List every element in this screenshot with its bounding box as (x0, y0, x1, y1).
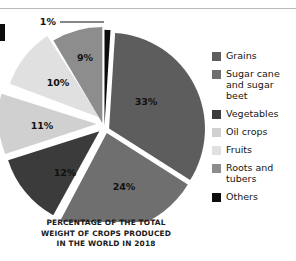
top-divider-rule (0, 8, 296, 9)
legend-item-others[interactable]: Others (212, 191, 296, 202)
legend-label-roots-and-tubers: Roots and tubers (226, 162, 273, 184)
chart-legend: Grains Sugar cane and sugar beet Vegetab… (212, 50, 296, 209)
caption-line-3: IN THE WORLD IN 2018 (6, 239, 206, 250)
legend-item-sugar-cane-and-sugar-beet[interactable]: Sugar cane and sugar beet (212, 68, 296, 101)
slice-value-others: 1% (40, 16, 57, 27)
caption-line-2: WEIGHT OF CROPS PRODUCED (6, 229, 206, 240)
pie-chart-svg: 33% 24% 12% 11% 10% 9% 1% (0, 10, 208, 222)
legend-swatch-fruits (212, 146, 221, 155)
legend-label-vegetables: Vegetables (226, 108, 279, 119)
slice-value-sugar-cane: 24% (113, 181, 136, 192)
legend-label-oil-crops: Oil crops (226, 126, 268, 137)
caption-line-1: PERCENTAGE OF THE TOTAL (6, 218, 206, 229)
legend-swatch-sugar-cane-and-sugar-beet (212, 70, 221, 79)
chart-caption: PERCENTAGE OF THE TOTAL WEIGHT OF CROPS … (6, 218, 206, 250)
legend-swatch-oil-crops (212, 128, 221, 137)
slice-value-fruits: 10% (47, 77, 70, 88)
slice-value-roots-and-tubers: 9% (77, 52, 94, 63)
legend-label-grains: Grains (226, 50, 257, 61)
legend-swatch-grains (212, 52, 221, 61)
legend-swatch-others (212, 193, 221, 202)
legend-label-fruits: Fruits (226, 144, 252, 155)
slice-value-oil-crops: 11% (31, 120, 54, 131)
legend-swatch-roots-and-tubers (212, 164, 221, 173)
legend-item-fruits[interactable]: Fruits (212, 144, 296, 155)
legend-item-roots-and-tubers[interactable]: Roots and tubers (212, 162, 296, 184)
legend-swatch-vegetables (212, 110, 221, 119)
slice-value-grains: 33% (135, 96, 158, 107)
pie-slice-others[interactable] (105, 30, 111, 126)
legend-item-grains[interactable]: Grains (212, 50, 296, 61)
legend-label-sugar-cane-and-sugar-beet: Sugar cane and sugar beet (226, 68, 280, 101)
pie-chart: 33% 24% 12% 11% 10% 9% 1% (0, 10, 208, 222)
legend-label-others: Others (226, 191, 258, 202)
legend-item-oil-crops[interactable]: Oil crops (212, 126, 296, 137)
slice-value-vegetables: 12% (54, 167, 77, 178)
legend-item-vegetables[interactable]: Vegetables (212, 108, 296, 119)
